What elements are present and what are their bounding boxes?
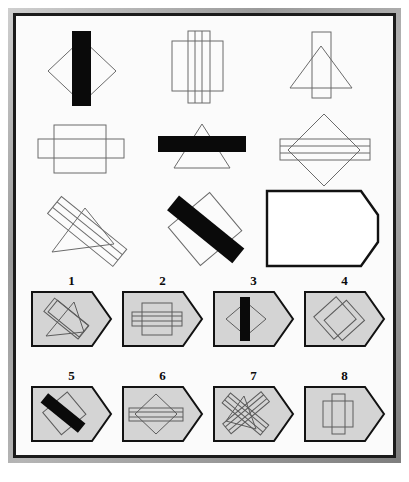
matrix-cell-4 — [30, 112, 140, 190]
diagonal-bar-black — [167, 196, 244, 264]
matrix-grid — [22, 22, 385, 274]
option-3[interactable]: 3 — [212, 274, 295, 348]
option-4-tag[interactable] — [303, 290, 386, 348]
option-5-tag[interactable] — [30, 385, 113, 443]
matrix-cell-2 — [150, 26, 260, 112]
option-5[interactable]: 5 — [30, 369, 113, 443]
diamond-outline — [288, 114, 360, 186]
answer-options: 1 2 — [22, 274, 385, 456]
matrix-cell-1 — [32, 26, 142, 112]
option-6-number: 6 — [121, 369, 204, 383]
option-2[interactable]: 2 — [121, 274, 204, 348]
square-outline — [54, 125, 106, 173]
matrix-cell-8 — [150, 184, 265, 274]
option-8[interactable]: 8 — [303, 369, 386, 443]
option-1-tag[interactable] — [30, 290, 113, 348]
vertical-bar-black — [72, 31, 91, 106]
matrix-cell-9-answer-slot[interactable] — [264, 188, 382, 270]
option-4-number: 4 — [303, 274, 386, 288]
option-6-tag[interactable] — [121, 385, 204, 443]
metal-frame: 1 2 — [8, 8, 401, 463]
tag-body — [32, 292, 111, 346]
option-2-tag[interactable] — [121, 290, 204, 348]
tag-body — [123, 292, 202, 346]
triangle-outline — [290, 46, 352, 88]
option-6[interactable]: 6 — [121, 369, 204, 443]
horizontal-bar-black — [158, 136, 246, 152]
option-8-number: 8 — [303, 369, 386, 383]
answer-blank-tag — [267, 191, 378, 266]
square-outline — [172, 41, 223, 91]
option-3-number: 3 — [212, 274, 295, 288]
horizontal-rect-outline — [38, 139, 124, 158]
matrix-cell-5 — [150, 112, 260, 190]
matrix-cell-3 — [270, 26, 380, 112]
option-2-number: 2 — [121, 274, 204, 288]
vertical-striped-rect — [188, 31, 210, 103]
puzzle-container: 1 2 — [0, 0, 409, 482]
option-1-number: 1 — [30, 274, 113, 288]
option-7-tag[interactable] — [212, 385, 295, 443]
matrix-cell-6 — [272, 106, 382, 192]
puzzle-panel: 1 2 — [13, 13, 396, 458]
diagonal-striped-rect — [48, 196, 127, 266]
option-7[interactable]: 7 — [212, 369, 295, 443]
matrix-cell-7 — [30, 188, 145, 273]
option-3-tag[interactable] — [212, 290, 295, 348]
tag-body — [214, 387, 293, 441]
horizontal-striped-rect — [280, 139, 370, 160]
vertical-bar-black — [240, 297, 250, 341]
option-4[interactable]: 4 — [303, 274, 386, 348]
option-5-number: 5 — [30, 369, 113, 383]
option-8-tag[interactable] — [303, 385, 386, 443]
option-1[interactable]: 1 — [30, 274, 113, 348]
option-7-number: 7 — [212, 369, 295, 383]
